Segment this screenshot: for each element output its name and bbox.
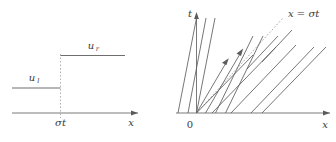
label-origin: 0 — [187, 119, 193, 130]
label-shock-curve: x = σt — [288, 8, 320, 19]
label-left-state-subscript: l — [37, 77, 39, 85]
characteristics-x-axis-arrowhead — [323, 111, 330, 116]
left-characteristic-3 — [197, 18, 216, 113]
label-shock-position: σt — [55, 117, 67, 128]
left-characteristic-5 — [206, 53, 241, 113]
label-left-state: u — [29, 72, 35, 83]
shock-line-dotted — [197, 18, 284, 113]
label-t-axis: t — [188, 8, 193, 19]
right-characteristic-7 — [262, 30, 292, 62]
label-right-state: u — [88, 40, 94, 51]
label-right-state-subscript: r — [96, 45, 100, 53]
characteristics-t-axis-arrowhead — [194, 12, 199, 19]
panel-characteristic-diagram: t x 0 x = σt — [176, 8, 330, 130]
figure-root: u l u r σt x — [0, 0, 336, 142]
left-characteristic-7 — [226, 36, 264, 113]
left-characteristic-4-arrowhead — [222, 58, 229, 65]
right-characteristic-5 — [262, 47, 326, 113]
left-characteristic-4 — [197, 63, 227, 114]
left-characteristic-1 — [178, 18, 197, 113]
right-characteristic-4 — [251, 47, 314, 113]
profile-x-axis-arrowhead — [131, 111, 138, 116]
label-profile-x-axis: x — [128, 117, 134, 128]
left-characteristic-5-arrowhead — [237, 49, 244, 56]
label-characteristics-x-axis: x — [322, 119, 328, 130]
riemann-figure: u l u r σt x — [0, 0, 336, 142]
panel-solution-profile: u l u r σt x — [12, 40, 138, 129]
